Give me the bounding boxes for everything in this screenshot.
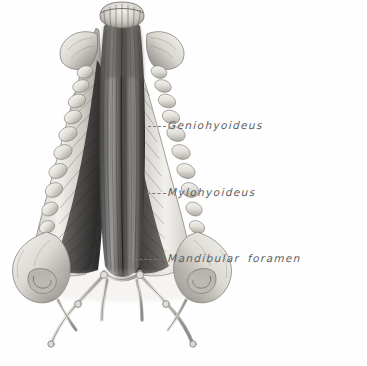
- label-geniohyoideus: Geniohyoideus: [168, 119, 264, 131]
- anatomical-illustration: [0, 0, 367, 366]
- label-mylohyoideus: Mylohyoideus: [168, 186, 257, 198]
- leader-line-geniohyoideus: [148, 126, 166, 127]
- figure-page: Geniohyoideus Mylohyoideus Mandibular fo…: [0, 0, 367, 366]
- leader-line-mylohyoideus: [147, 193, 166, 194]
- geniohyoideus-muscle: [99, 22, 145, 278]
- incisor-arch: [100, 2, 144, 28]
- figure-shadow: [26, 270, 218, 302]
- leader-line-mandibular-foramen: [130, 259, 166, 260]
- label-mandibular-foramen: Mandibular foramen: [168, 252, 302, 264]
